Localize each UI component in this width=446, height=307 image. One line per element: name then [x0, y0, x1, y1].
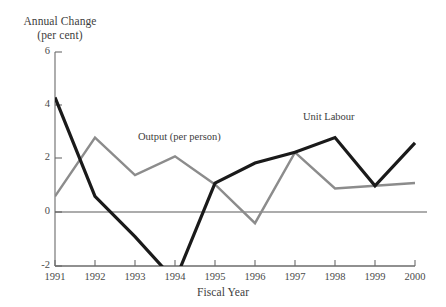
plot-area	[0, 0, 446, 307]
axes-group	[55, 52, 415, 266]
series-group	[55, 97, 415, 280]
series-line-unit-labour	[55, 97, 415, 280]
chart-container: Annual Change (per cent) Fiscal Year 6 4…	[0, 0, 446, 307]
